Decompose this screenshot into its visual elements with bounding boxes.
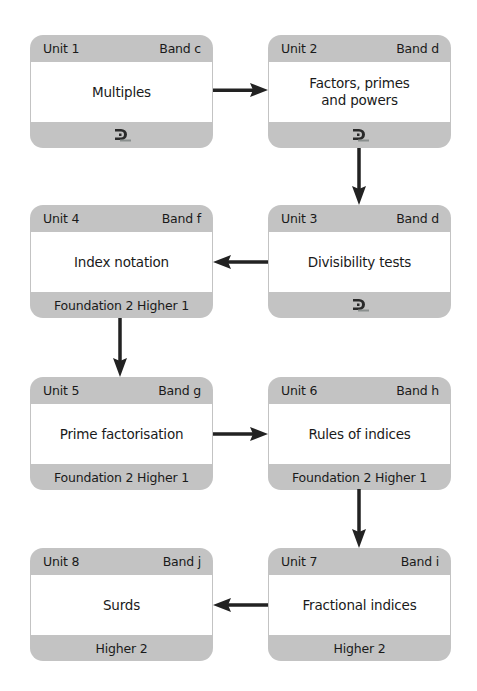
unit-header: Unit 2 Band d [268, 35, 451, 62]
unit-title: Prime factorisation [31, 404, 212, 464]
unit-number: Unit 3 [281, 211, 317, 226]
unit-box-2: Unit 2 Band d Factors, primes and powers [268, 35, 451, 148]
arrow-down-icon [352, 148, 366, 205]
arrow-down-icon [113, 318, 127, 377]
arrow-down-icon [352, 489, 366, 548]
unit-box-1: Unit 1 Band c Multiples [30, 35, 213, 148]
unit-footer-label: Higher 2 [268, 635, 451, 661]
unit-title: Surds [31, 575, 212, 635]
unit-box-5: Unit 5 Band g Prime factorisation Founda… [30, 377, 213, 490]
unit-band: Band j [163, 554, 201, 569]
unit-number: Unit 4 [43, 211, 79, 226]
arrow-left-icon [213, 598, 268, 612]
unit-title: Fractional indices [269, 575, 450, 635]
unit-footer [268, 292, 451, 318]
unit-title: Index notation [31, 232, 212, 292]
unit-footer-label: Foundation 2 Higher 1 [268, 464, 451, 490]
unit-box-4: Unit 4 Band f Index notation Foundation … [30, 205, 213, 318]
unit-title: Factors, primes and powers [269, 62, 450, 122]
publisher-logo-icon [350, 297, 370, 313]
unit-number: Unit 1 [43, 41, 79, 56]
unit-band: Band i [401, 554, 439, 569]
unit-band: Band h [396, 383, 439, 398]
arrow-right-icon [213, 427, 268, 441]
unit-number: Unit 7 [281, 554, 317, 569]
unit-header: Unit 3 Band d [268, 205, 451, 232]
unit-band: Band f [162, 211, 201, 226]
unit-box-8: Unit 8 Band j Surds Higher 2 [30, 548, 213, 661]
unit-title: Rules of indices [269, 404, 450, 464]
unit-footer-label: Higher 2 [30, 635, 213, 661]
unit-band: Band d [396, 211, 439, 226]
unit-band: Band d [396, 41, 439, 56]
unit-band: Band g [158, 383, 201, 398]
unit-number: Unit 5 [43, 383, 79, 398]
unit-box-7: Unit 7 Band i Fractional indices Higher … [268, 548, 451, 661]
unit-footer [268, 122, 451, 148]
unit-box-3: Unit 3 Band d Divisibility tests [268, 205, 451, 318]
publisher-logo-icon [112, 127, 132, 143]
unit-header: Unit 1 Band c [30, 35, 213, 62]
unit-number: Unit 8 [43, 554, 79, 569]
unit-title: Divisibility tests [269, 232, 450, 292]
unit-number: Unit 2 [281, 41, 317, 56]
unit-header: Unit 4 Band f [30, 205, 213, 232]
unit-footer-label: Foundation 2 Higher 1 [30, 292, 213, 318]
unit-title: Multiples [31, 62, 212, 122]
unit-footer [30, 122, 213, 148]
unit-header: Unit 7 Band i [268, 548, 451, 575]
unit-number: Unit 6 [281, 383, 317, 398]
unit-header: Unit 5 Band g [30, 377, 213, 404]
arrow-right-icon [213, 83, 268, 97]
unit-header: Unit 6 Band h [268, 377, 451, 404]
unit-footer-label: Foundation 2 Higher 1 [30, 464, 213, 490]
publisher-logo-icon [350, 127, 370, 143]
unit-band: Band c [159, 41, 201, 56]
arrow-left-icon [213, 255, 268, 269]
unit-header: Unit 8 Band j [30, 548, 213, 575]
unit-box-6: Unit 6 Band h Rules of indices Foundatio… [268, 377, 451, 490]
